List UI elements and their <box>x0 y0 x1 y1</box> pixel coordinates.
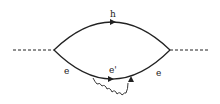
arrow-bottom-icon <box>108 76 114 82</box>
label-h: h <box>110 9 116 19</box>
arrow-top-icon <box>110 19 116 25</box>
hole-propagator <box>54 22 170 50</box>
feynman-diagram: h e e' e <box>0 0 220 104</box>
label-e-prime: e' <box>109 65 117 75</box>
label-e-left: e <box>64 66 69 76</box>
label-e-right: e <box>156 68 161 78</box>
